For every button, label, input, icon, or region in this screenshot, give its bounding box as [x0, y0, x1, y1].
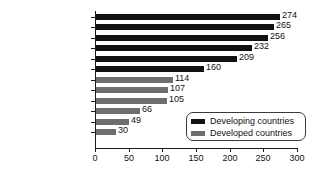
legend-label-developing: Developing countries	[210, 116, 294, 127]
bar-developing	[96, 24, 274, 30]
bar-developing	[96, 14, 280, 20]
bar-developed	[96, 98, 167, 104]
y-axis-tick	[91, 122, 95, 123]
bar-value-label: 107	[170, 83, 185, 93]
bar-value-label: 114	[175, 73, 189, 83]
bar-developed	[96, 119, 129, 125]
x-axis-tick	[162, 148, 163, 152]
bar-developing	[96, 35, 268, 41]
y-axis-tick	[91, 59, 95, 60]
bar-developed	[96, 129, 116, 135]
y-axis-tick	[91, 48, 95, 49]
x-axis-tick	[196, 148, 197, 152]
bar-value-label: 232	[254, 41, 269, 51]
legend-swatch-developed-icon	[191, 131, 205, 136]
x-axis-tick	[263, 148, 264, 152]
y-axis-tick	[91, 80, 95, 81]
bar-developed	[96, 108, 140, 114]
bar-developing	[96, 66, 204, 72]
bar-value-label: 209	[239, 52, 254, 62]
y-axis-tick	[91, 17, 95, 18]
bar-value-label: 160	[206, 62, 221, 72]
x-axis-tick-label: 300	[277, 153, 314, 164]
bar-value-label: 274	[282, 10, 297, 20]
x-axis-tick	[230, 148, 231, 152]
chart-legend: Developing countries Developed countries	[186, 112, 306, 141]
bar-value-label: 105	[169, 94, 184, 104]
bar-value-label: 265	[276, 20, 291, 30]
legend-item-developing: Developing countries	[191, 115, 301, 127]
bar-developing	[96, 56, 237, 62]
plot-area: India274Egypt265Philippines256Mexico232C…	[0, 0, 314, 181]
bar-value-label: 256	[270, 31, 285, 41]
bar-value-label: 66	[142, 104, 152, 114]
bar-developing	[96, 45, 252, 51]
legend-item-developed: Developed countries	[191, 127, 301, 139]
y-axis-tick	[91, 69, 95, 70]
y-axis-tick	[91, 111, 95, 112]
y-axis-tick	[91, 101, 95, 102]
y-axis-tick	[91, 38, 95, 39]
y-axis-tick	[91, 27, 95, 28]
y-axis-tick	[91, 90, 95, 91]
bar-value-label: 30	[118, 125, 128, 135]
x-axis-tick	[95, 148, 96, 152]
legend-label-developed: Developed countries	[210, 128, 292, 139]
x-axis-tick	[297, 148, 298, 152]
legend-swatch-developing-icon	[191, 119, 205, 124]
bar-developed	[96, 87, 168, 93]
x-axis-tick	[129, 148, 130, 152]
y-axis-tick	[91, 132, 95, 133]
bar-value-label: 49	[131, 115, 141, 125]
bar-chart: India274Egypt265Philippines256Mexico232C…	[0, 0, 314, 181]
bar-developed	[96, 77, 173, 83]
